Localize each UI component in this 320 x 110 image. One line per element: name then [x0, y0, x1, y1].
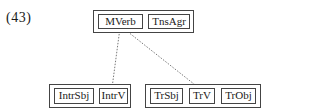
- node-trobj: TrObj: [221, 88, 256, 104]
- top-group-box: MVerb TnsAgr: [93, 10, 194, 33]
- bottom-right-group-box: TrSbj TrV TrObj: [145, 84, 261, 108]
- node-tnsagr: TnsAgr: [148, 14, 190, 29]
- link-mverb-trv: [123, 28, 199, 88]
- node-intrv: IntrV: [99, 88, 128, 104]
- link-mverb-intrv: [112, 28, 120, 88]
- bottom-left-group-box: IntrSbj IntrV: [49, 84, 131, 108]
- node-trv: TrV: [189, 88, 215, 104]
- node-mverb: MVerb: [98, 14, 143, 29]
- node-trsbj: TrSbj: [150, 88, 183, 104]
- node-intrsbj: IntrSbj: [54, 88, 94, 104]
